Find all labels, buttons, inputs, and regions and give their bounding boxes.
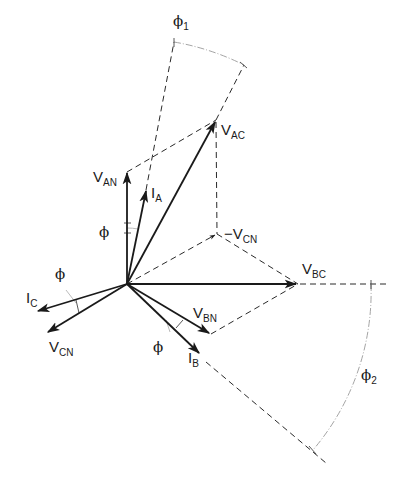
vcn-label: VCN bbox=[49, 338, 73, 358]
construction-lines bbox=[127, 42, 390, 463]
vac-label: VAC bbox=[221, 121, 245, 141]
phi1-tick-right bbox=[240, 62, 247, 68]
ia-label: IA bbox=[151, 184, 162, 204]
ic-label: IC bbox=[26, 289, 37, 309]
vac-extension-line bbox=[216, 65, 244, 120]
phi-a-label: ϕ bbox=[99, 223, 109, 241]
phi2-tick-bottom bbox=[309, 446, 316, 454]
van-label: VAN bbox=[93, 168, 117, 188]
vbc-label: VBC bbox=[302, 260, 326, 280]
phi-b-label: ϕ bbox=[153, 338, 163, 356]
ia-extension-line bbox=[146, 42, 174, 190]
phasor-diagram: ϕ1 VAC VAN IA ϕ −VCN VBC ϕ IC VBN bbox=[0, 0, 404, 490]
phasor-ic bbox=[38, 284, 127, 311]
phasors bbox=[38, 122, 296, 353]
phasor-ia bbox=[127, 191, 146, 284]
angle-arcs bbox=[66, 38, 371, 454]
phi2-label: ϕ2 bbox=[361, 366, 377, 386]
vbn-to-vbc-line bbox=[211, 284, 298, 334]
phasor-vcn bbox=[48, 284, 127, 332]
ib-extension-line bbox=[206, 362, 326, 463]
phi-c-label: ϕ bbox=[55, 265, 65, 283]
phi-c-tick bbox=[76, 300, 79, 313]
phi1-label: ϕ1 bbox=[173, 12, 189, 32]
vac-to-negvcn-line bbox=[216, 122, 217, 234]
phi-b-tick bbox=[176, 320, 183, 328]
labels: ϕ1 VAC VAN IA ϕ −VCN VBC ϕ IC VBN bbox=[26, 12, 377, 386]
vbn-label: VBN bbox=[193, 304, 217, 324]
phi-a-arc bbox=[127, 228, 138, 229]
phi1-arc bbox=[174, 42, 244, 65]
neg-vcn-label: −VCN bbox=[224, 225, 257, 245]
